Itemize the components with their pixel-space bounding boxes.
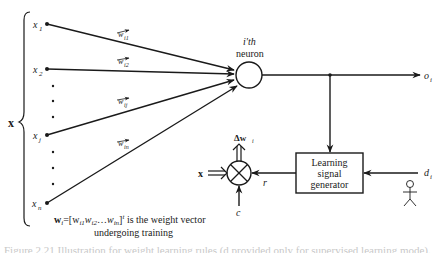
neuron-node — [236, 62, 262, 88]
input-xj-sub: j — [38, 136, 41, 144]
weight-label-i2: w i2 — [117, 57, 129, 68]
connection-x2 — [47, 69, 234, 74]
connection-xj — [47, 80, 234, 135]
weight-label-i1: w i1 — [117, 30, 129, 41]
multiplier-x-label: x — [198, 168, 203, 179]
lsg-line3: generator — [311, 179, 349, 190]
input-vector-brace — [19, 12, 30, 226]
desired-label-sub: i — [430, 173, 432, 181]
input-xj-base: x — [32, 130, 38, 141]
x-vector-double-arrow — [208, 167, 227, 179]
output-label-sub: i — [430, 76, 432, 84]
input-x2-sub: 2 — [39, 70, 43, 78]
input-xn-base: x — [31, 198, 37, 209]
input-x1: x 1 — [32, 19, 49, 33]
teacher-icon — [403, 181, 417, 207]
ellipsis-dots-lower — [52, 151, 54, 185]
r-label: r — [263, 177, 267, 188]
weight-vector-note: wi=[wi1wi2…win]t is the weight vector un… — [54, 213, 206, 238]
delta-w-double-arrow — [233, 144, 245, 161]
input-x1-base: x — [32, 19, 38, 30]
svg-text:wi=[wi1wi2…win]t is the weight: wi=[wi1wi2…win]t is the weight vector — [54, 213, 206, 227]
neuron-label-line2: neuron — [236, 48, 264, 59]
input-x2-base: x — [32, 64, 38, 75]
input-vector-label: x — [8, 116, 14, 130]
input-xj: x j — [32, 130, 49, 144]
lsg-line1: Learning — [311, 157, 347, 168]
connection-xn — [47, 86, 237, 203]
delta-w-label-sub: i — [252, 138, 254, 144]
figure-caption-text: Figure 2.21 Illustration for weight lear… — [4, 244, 431, 253]
figure-caption-cutoff: Figure 2.21 Illustration for weight lear… — [0, 243, 444, 253]
lsg-line2: signal — [318, 168, 342, 179]
input-xn-sub: n — [38, 204, 42, 212]
neuron-label-line1: i'th — [243, 36, 256, 47]
input-xn: x n — [31, 198, 49, 212]
output-label: o — [424, 70, 429, 81]
ellipsis-dots-upper — [52, 85, 54, 118]
delta-w-label: Δw — [234, 133, 247, 143]
weight-vector-note-line2: undergoing training — [94, 227, 173, 238]
svg-text:ij: ij — [124, 102, 128, 108]
svg-text:in: in — [124, 144, 129, 150]
input-x2: x 2 — [32, 64, 49, 78]
svg-text:i2: i2 — [124, 62, 129, 68]
connection-x1 — [47, 24, 234, 70]
input-x1-sub: 1 — [39, 25, 43, 33]
weight-label-in: w in — [117, 139, 129, 150]
c-label: c — [236, 207, 241, 218]
svg-text:i1: i1 — [124, 35, 129, 41]
weight-label-ij: w ij — [117, 97, 129, 108]
